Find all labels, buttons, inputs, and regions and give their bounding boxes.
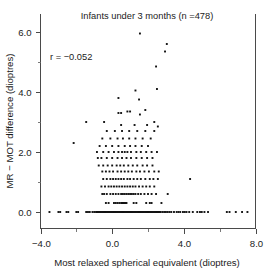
data-point [108,202,110,204]
data-point [67,211,69,213]
data-point [132,165,134,167]
data-point [135,90,137,92]
data-point [127,171,129,173]
y-tick-label: 6.0 [18,27,31,38]
data-point [170,211,172,213]
data-point [147,145,149,147]
data-point [109,193,111,195]
data-point [189,178,191,180]
data-point [147,193,149,195]
data-point [93,211,95,213]
data-point [117,145,119,147]
data-point [145,151,147,153]
data-point [123,165,125,167]
data-point [129,145,131,147]
data-point [117,171,119,173]
data-point [152,157,154,159]
data-point [120,171,122,173]
data-point [129,178,131,180]
data-point [139,33,141,35]
data-point [107,165,109,167]
data-point [126,178,128,180]
data-point [155,193,157,195]
data-point [151,151,153,153]
data-point [98,165,100,167]
data-point [136,178,138,180]
x-tick-label: 4.0 [178,238,191,249]
data-point [138,186,140,188]
data-point [143,193,145,195]
data-point [182,211,184,213]
data-point [156,151,158,153]
data-point [121,151,123,153]
data-point [114,130,116,132]
data-point [131,171,133,173]
data-point [113,186,115,188]
data-point [179,211,181,213]
data-point [85,211,87,213]
data-point [101,171,103,173]
data-point [77,211,79,213]
data-point [140,178,142,180]
data-point [122,193,124,195]
data-point [137,193,139,195]
data-point [121,157,123,159]
data-point [49,211,51,213]
y-axis-ticks: 0.02.04.06.0 [18,27,40,218]
data-point [108,186,110,188]
data-point [102,165,104,167]
data-point [117,193,119,195]
data-point [135,145,137,147]
data-point [201,211,203,213]
data-point [241,211,243,213]
data-point [123,178,125,180]
data-point [111,145,113,147]
data-point [103,121,105,123]
data-point [166,43,168,45]
data-point [117,138,119,140]
data-point [126,193,128,195]
data-point [141,157,143,159]
data-point [117,112,119,114]
data-point [136,130,138,132]
data-point [130,157,132,159]
data-point [186,211,188,213]
data-point [132,186,134,188]
data-point [109,178,111,180]
data-point [143,171,145,173]
data-point [124,145,126,147]
data-point [184,211,186,213]
data-point [127,165,129,167]
data-point [118,202,120,204]
data-point [203,211,205,213]
data-point [133,202,135,204]
data-point [163,211,165,213]
data-point [157,178,159,180]
data-point [135,186,137,188]
data-point [106,178,108,180]
data-point [139,171,141,173]
data-point [135,193,137,195]
data-point [105,202,107,204]
data-point [106,157,108,159]
correlation-annotation: r = −0.052 [50,52,92,62]
data-point [160,202,162,204]
data-point [129,193,131,195]
data-point [153,186,155,188]
data-point [178,211,180,213]
data-point [89,211,91,213]
data-point [100,157,102,159]
data-point [142,165,144,167]
data-point [152,165,154,167]
data-point [126,111,128,113]
data-point [106,193,108,195]
data-point [57,211,59,213]
data-point [118,186,120,188]
data-point [126,151,128,153]
data-point [158,171,160,173]
x-tick-label: −4.0 [32,238,51,249]
y-axis-label: MR − MOT difference (dioptres) [4,54,15,189]
data-point [148,171,150,173]
data-point [142,186,144,188]
data-point [122,138,124,140]
